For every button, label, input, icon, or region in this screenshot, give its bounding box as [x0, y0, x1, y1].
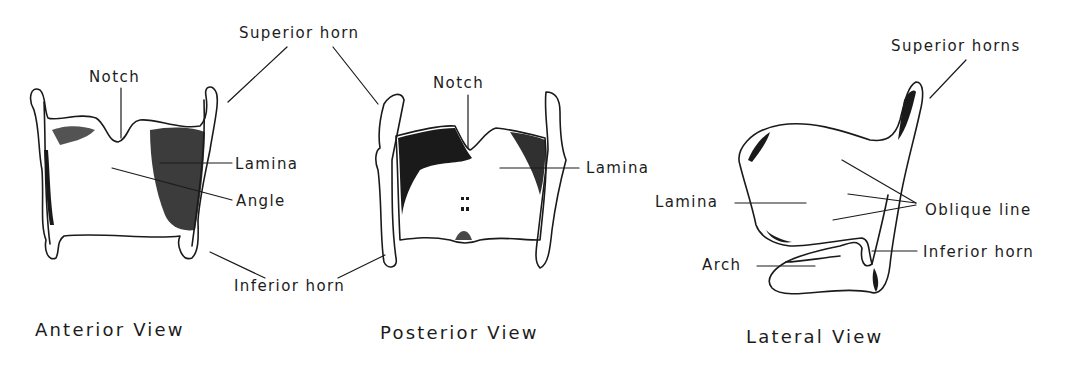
posterior-shading	[398, 128, 545, 240]
label-anterior-lamina: Lamina	[235, 155, 298, 173]
label-posterior-notch: Notch	[433, 74, 484, 92]
label-inferior-horn: Inferior horn	[234, 277, 345, 295]
label-superior-horn: Superior horn	[239, 24, 360, 42]
label-lateral-arch: Arch	[702, 256, 741, 274]
label-lateral-lamina: Lamina	[655, 193, 718, 211]
label-lateral-superior-horns: Superior horns	[891, 37, 1021, 55]
caption-anterior-view: Anterior View	[35, 319, 185, 340]
label-lateral-oblique-line: Oblique line	[925, 201, 1032, 219]
label-anterior-notch: Notch	[89, 68, 140, 86]
anterior-shading	[44, 126, 205, 230]
caption-lateral-view: Lateral View	[746, 326, 883, 347]
label-posterior-lamina: Lamina	[586, 159, 649, 177]
label-lateral-inferior-horn: Inferior horn	[923, 243, 1034, 261]
label-anterior-angle: Angle	[236, 192, 286, 210]
lateral-cartilage-drawing	[739, 82, 923, 294]
caption-posterior-view: Posterior View	[380, 322, 539, 343]
diagram-canvas	[0, 0, 1079, 374]
